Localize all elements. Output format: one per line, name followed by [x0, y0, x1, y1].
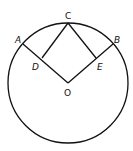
- label-c: C: [65, 11, 71, 21]
- label-e: E: [97, 62, 103, 72]
- segment-ob: [68, 44, 113, 83]
- label-b: B: [114, 35, 120, 45]
- label-o: O: [64, 88, 71, 98]
- segment-oa: [23, 44, 68, 83]
- segment-cd: [42, 23, 68, 58]
- geometry-diagram: C A B D E O: [0, 0, 133, 151]
- label-d: D: [32, 62, 39, 72]
- label-a: A: [14, 35, 21, 45]
